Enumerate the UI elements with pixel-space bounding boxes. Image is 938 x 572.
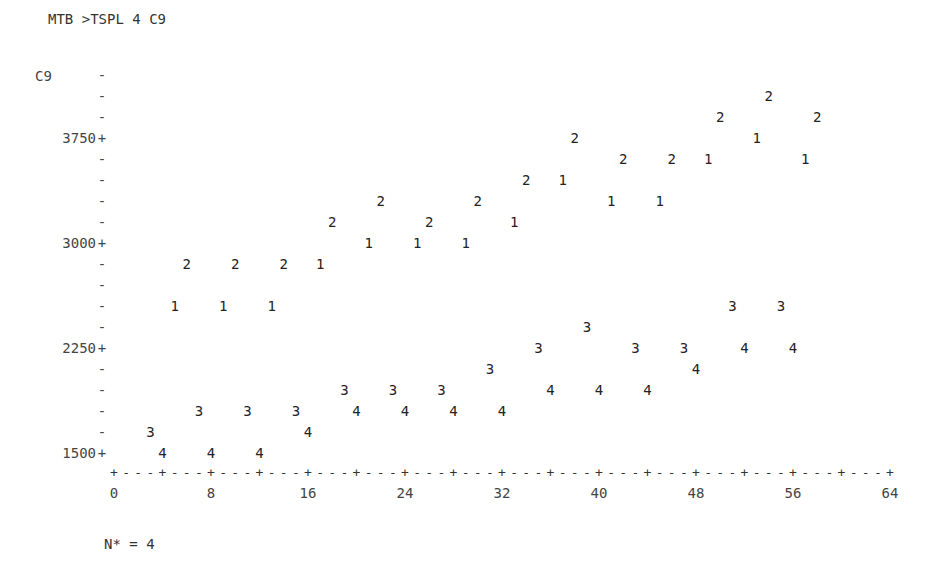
data-point-series-3: 3 [728, 299, 736, 313]
data-point-series-4: 4 [643, 383, 651, 397]
x-axis-dash: - [425, 466, 433, 479]
x-axis-dash: - [510, 466, 518, 479]
y-tick-minor: - [98, 173, 106, 187]
y-tick-major: + [98, 236, 106, 250]
x-axis-tick: + [886, 466, 894, 479]
x-axis-dash: - [316, 466, 324, 479]
data-point-series-2: 2 [474, 194, 482, 208]
x-axis-dash: - [292, 466, 300, 479]
data-point-series-3: 3 [195, 404, 203, 418]
y-tick-minor: - [98, 257, 106, 271]
data-point-series-3: 3 [680, 341, 688, 355]
x-axis-tick: + [401, 466, 409, 479]
x-axis-dash: - [171, 466, 179, 479]
data-point-series-2: 2 [328, 215, 336, 229]
x-axis-tick: + [256, 466, 264, 479]
x-axis-tick: + [595, 466, 603, 479]
x-axis-tick: + [741, 466, 749, 479]
y-tick-minor: - [98, 110, 106, 124]
data-point-series-3: 3 [534, 341, 542, 355]
y-tick-minor: - [98, 152, 106, 166]
x-axis-dash: - [522, 466, 530, 479]
x-axis-tick: + [110, 466, 118, 479]
x-axis-dash: - [340, 466, 348, 479]
y-tick-major: + [98, 131, 106, 145]
data-point-series-3: 3 [777, 299, 785, 313]
x-axis-dash: - [607, 466, 615, 479]
x-axis-dash: - [850, 466, 858, 479]
x-axis-dash: - [559, 466, 567, 479]
y-tick-minor: - [98, 278, 106, 292]
x-axis-tick: + [838, 466, 846, 479]
x-axis-dash: - [825, 466, 833, 479]
x-axis-dash: - [716, 466, 724, 479]
y-tick-minor: - [98, 194, 106, 208]
data-point-series-1: 1 [316, 257, 324, 271]
data-point-series-3: 3 [292, 404, 300, 418]
x-axis-dash: - [134, 466, 142, 479]
x-axis-tick: + [159, 466, 167, 479]
y-tick-minor: - [98, 383, 106, 397]
data-point-series-4: 4 [304, 425, 312, 439]
x-axis-dash: - [365, 466, 373, 479]
data-point-series-4: 4 [255, 446, 263, 460]
x-axis-dash: - [813, 466, 821, 479]
data-point-series-2: 2 [668, 152, 676, 166]
x-tick-label: 16 [300, 486, 317, 500]
x-tick-label: 48 [688, 486, 705, 500]
data-point-series-4: 4 [449, 404, 457, 418]
y-tick-label: 3750 [26, 131, 96, 145]
x-axis-dash: - [704, 466, 712, 479]
x-axis-dash: - [474, 466, 482, 479]
data-point-series-1: 1 [461, 236, 469, 250]
y-tick-minor: - [98, 215, 106, 229]
x-axis-tick: + [498, 466, 506, 479]
command-line: MTB >TSPL 4 C9 [48, 11, 166, 27]
x-axis-dash: - [777, 466, 785, 479]
data-point-series-4: 4 [498, 404, 506, 418]
data-point-series-2: 2 [716, 110, 724, 124]
x-axis-dash: - [195, 466, 203, 479]
x-tick-label: 8 [207, 486, 215, 500]
data-point-series-4: 4 [546, 383, 554, 397]
x-axis-dash: - [219, 466, 227, 479]
x-tick-label: 56 [785, 486, 802, 500]
y-tick-minor: - [98, 89, 106, 103]
x-axis-tick: + [644, 466, 652, 479]
data-point-series-3: 3 [437, 383, 445, 397]
data-point-series-2: 2 [425, 215, 433, 229]
data-point-series-4: 4 [595, 383, 603, 397]
x-axis-tick: + [692, 466, 700, 479]
x-axis-dash: - [680, 466, 688, 479]
data-point-series-4: 4 [692, 362, 700, 376]
data-point-series-3: 3 [146, 425, 154, 439]
y-tick-minor: - [98, 404, 106, 418]
x-tick-label: 64 [882, 486, 899, 500]
data-point-series-2: 2 [522, 173, 530, 187]
data-point-series-2: 2 [231, 257, 239, 271]
data-point-series-1: 1 [752, 131, 760, 145]
data-point-series-2: 2 [280, 257, 288, 271]
data-point-series-1: 1 [267, 299, 275, 313]
x-axis-dash: - [462, 466, 470, 479]
x-axis-dash: - [571, 466, 579, 479]
x-axis-dash: - [328, 466, 336, 479]
y-tick-label: 2250 [26, 341, 96, 355]
y-tick-minor: - [98, 320, 106, 334]
x-axis-dash: - [377, 466, 385, 479]
missing-count: N* = 4 [104, 536, 155, 552]
x-axis-dash: - [268, 466, 276, 479]
data-point-series-3: 3 [243, 404, 251, 418]
x-axis-dash: - [668, 466, 676, 479]
x-axis-dash: - [389, 466, 397, 479]
x-axis-dash: - [243, 466, 251, 479]
data-point-series-1: 1 [558, 173, 566, 187]
x-axis-dash: - [413, 466, 421, 479]
x-axis-dash: - [862, 466, 870, 479]
data-point-series-3: 3 [340, 383, 348, 397]
x-axis-dash: - [437, 466, 445, 479]
y-tick-minor: - [98, 299, 106, 313]
x-axis-dash: - [146, 466, 154, 479]
data-point-series-4: 4 [207, 446, 215, 460]
x-axis-dash: - [728, 466, 736, 479]
